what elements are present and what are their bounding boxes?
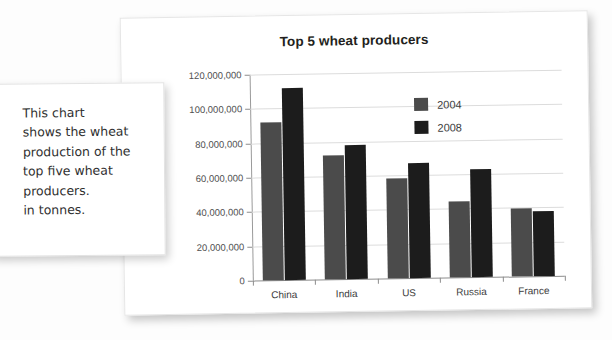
x-axis-label-russia: Russia: [456, 286, 487, 297]
y-axis-label: 40,000,000: [196, 207, 244, 219]
y-axis-tick: [247, 246, 252, 247]
chart-card: Top 5 wheat producers 020,000,00040,000,…: [120, 10, 593, 315]
y-axis-label: 60,000,000: [196, 172, 244, 184]
x-axis-tick: [253, 281, 254, 286]
scene: Top 5 wheat producers 020,000,00040,000,…: [0, 0, 612, 340]
legend-label-2008: 2008: [437, 121, 462, 133]
legend-label-2004: 2004: [437, 98, 462, 110]
x-axis-tick: [378, 279, 379, 284]
bar-india-2004: [323, 156, 346, 280]
bar-group: [509, 70, 555, 277]
legend-swatch-2008: [414, 121, 428, 134]
bar-group: [322, 73, 368, 280]
y-axis-tick: [245, 109, 250, 110]
x-axis-tick: [565, 276, 566, 281]
bar-russia-2004: [449, 201, 471, 278]
note-text: This chart shows the wheat production of…: [22, 102, 156, 219]
y-axis-tick: [245, 75, 250, 76]
bar-group: [259, 74, 305, 281]
bar-china-2008: [281, 88, 305, 281]
chart-plot-area: 020,000,00040,000,00060,000,00080,000,00…: [250, 70, 565, 281]
y-axis-tick: [246, 178, 251, 179]
y-axis-label: 80,000,000: [195, 138, 243, 150]
y-axis-label: 20,000,000: [197, 241, 245, 253]
bar-us-2004: [386, 178, 409, 279]
bar-us-2008: [408, 163, 431, 278]
chart-legend: 20042008: [414, 97, 462, 134]
y-axis-tick: [247, 212, 252, 213]
x-axis-tick: [440, 278, 441, 283]
chart-inner: Top 5 wheat producers 020,000,00040,000,…: [121, 11, 592, 314]
chart-title: Top 5 wheat producers: [121, 29, 587, 51]
y-axis-label: 100,000,000: [189, 104, 242, 116]
y-axis-label: 0: [239, 275, 244, 286]
bar-india-2008: [345, 145, 368, 279]
legend-item-2008: 2008: [414, 120, 462, 134]
x-axis-label-india: India: [336, 288, 358, 299]
y-axis-label: 120,000,000: [189, 69, 242, 81]
bar-groups: [250, 70, 562, 75]
bar-france-2004: [511, 208, 533, 276]
x-axis-label-us: US: [402, 287, 416, 298]
bar-china-2004: [260, 122, 283, 280]
y-axis-tick: [246, 143, 251, 144]
bar-france-2008: [533, 211, 555, 277]
note-card: This chart shows the wheat production of…: [0, 82, 166, 257]
legend-item-2004: 2004: [414, 97, 462, 111]
x-axis-label-china: China: [271, 289, 297, 300]
legend-swatch-2004: [414, 98, 428, 111]
x-axis-tick: [502, 277, 503, 282]
x-axis-label-france: France: [518, 285, 549, 296]
bar-russia-2008: [470, 169, 493, 277]
x-axis-tick: [315, 280, 316, 285]
